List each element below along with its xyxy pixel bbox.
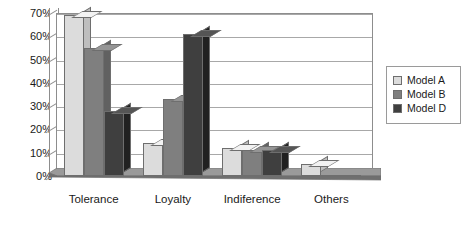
gridline — [57, 14, 372, 15]
bar — [341, 176, 361, 177]
legend-swatch-icon — [393, 104, 402, 113]
x-axis-tick-label: Others — [314, 193, 349, 205]
gridline — [57, 107, 372, 108]
gridline — [57, 84, 372, 85]
x-axis-tick-label: Tolerance — [69, 193, 119, 205]
x-axis-tick-label: Indiference — [224, 193, 281, 205]
legend-item: Model B — [393, 89, 455, 100]
legend-label: Model A — [407, 75, 445, 86]
gridline — [57, 37, 372, 38]
legend-label: Model D — [407, 103, 446, 114]
legend-swatch-icon — [393, 76, 402, 85]
legend-swatch-icon — [393, 90, 402, 99]
gridlines — [57, 14, 372, 175]
x-axis-tick-label: Loyalty — [155, 193, 191, 205]
bar-chart: 0%10%20%30%40%50%60%70% ToleranceLoyalty… — [0, 0, 469, 227]
legend-label: Model B — [407, 89, 446, 100]
gridline — [57, 130, 372, 131]
legend-item: Model A — [393, 75, 455, 86]
plot-area — [56, 13, 373, 176]
y-axis: 0%10%20%30%40%50%60%70% — [0, 0, 52, 227]
gridline — [57, 61, 372, 62]
bar — [321, 176, 341, 177]
gridline — [57, 154, 372, 155]
legend-item: Model D — [393, 103, 455, 114]
legend: Model AModel BModel D — [386, 66, 461, 124]
